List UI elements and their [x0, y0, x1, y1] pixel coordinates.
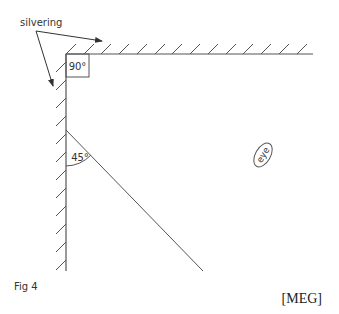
right-angle-marker: 90° — [66, 54, 89, 77]
silvering-arrow-vertical — [36, 31, 53, 86]
silvering-label: silvering — [20, 17, 62, 28]
silvering-annotation: silvering — [20, 17, 102, 86]
incidence-angle-label: 45° — [71, 152, 89, 163]
source-label: [MEG] — [282, 291, 322, 306]
mirror-diagram: 90° 45° silvering eye Fig 4 [MEG] — [0, 0, 339, 314]
horizontal-mirror — [66, 44, 313, 54]
silvering-arrow-horizontal — [36, 31, 102, 41]
eye-marker: eye — [250, 140, 276, 170]
horizontal-silvering-hatch — [66, 44, 307, 54]
incidence-angle-marker: 45° — [66, 152, 91, 166]
eye-label: eye — [255, 145, 272, 165]
right-angle-label: 90° — [69, 61, 87, 72]
vertical-mirror — [56, 54, 66, 271]
figure-caption: Fig 4 — [14, 281, 38, 292]
vertical-silvering-hatch — [56, 62, 66, 270]
